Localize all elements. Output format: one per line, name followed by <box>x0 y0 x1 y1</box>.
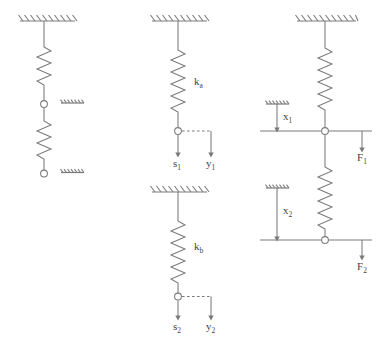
label-x-1: x1 <box>283 111 292 122</box>
node-lower-4 <box>322 237 329 244</box>
support-hatch-bottom-1 <box>61 169 85 172</box>
spring-lower-4 <box>318 164 332 233</box>
spring-upper-4 <box>318 45 332 114</box>
label-f-1: F1 <box>357 152 367 163</box>
spring-systems-svg <box>0 0 390 354</box>
datum-hatch-x2 <box>266 185 290 188</box>
node-bottom-1 <box>41 170 48 177</box>
spring-ka <box>171 47 185 116</box>
diagram-canvas: ka s1 y1 kb s2 y2 x1 F1 x2 F2 <box>0 0 390 354</box>
panel-series-springs <box>19 15 85 177</box>
label-y-2: y2 <box>206 321 215 332</box>
node-2 <box>175 128 182 135</box>
label-s-2: s2 <box>173 321 181 332</box>
spring-kb <box>171 218 185 287</box>
label-x-2: x2 <box>283 205 292 216</box>
support-hatch-middle-1 <box>61 100 85 103</box>
node-upper-4 <box>322 128 329 135</box>
ceiling-hatch-2 <box>151 15 210 21</box>
label-k-a: ka <box>194 76 203 87</box>
node-middle-1 <box>41 101 48 108</box>
ceiling-hatch-3 <box>151 186 210 192</box>
panel-combined-forces <box>260 15 372 258</box>
datum-hatch-x1 <box>266 101 290 104</box>
spring-lower-1 <box>37 118 51 163</box>
node-3 <box>175 293 182 300</box>
label-k-b: kb <box>194 241 203 252</box>
label-s-1: s1 <box>173 158 181 169</box>
label-y-1: y1 <box>206 158 215 169</box>
ceiling-hatch-1 <box>19 15 78 21</box>
ceiling-hatch-4 <box>296 15 359 21</box>
label-f-2: F2 <box>357 261 367 272</box>
spring-upper-1 <box>37 44 51 89</box>
